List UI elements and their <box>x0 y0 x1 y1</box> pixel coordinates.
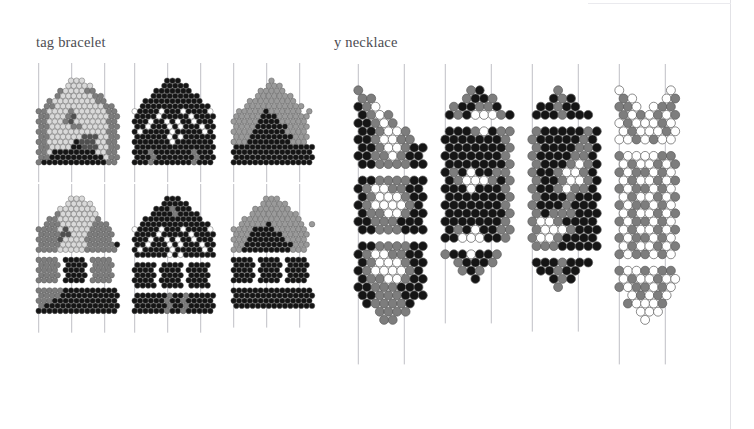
bead[interactable] <box>545 135 554 144</box>
bead[interactable] <box>541 225 550 234</box>
bead[interactable] <box>480 127 489 136</box>
bead[interactable] <box>210 303 216 309</box>
bead[interactable] <box>255 221 261 227</box>
bead[interactable] <box>162 232 168 238</box>
bead[interactable] <box>103 114 109 120</box>
bead[interactable] <box>234 262 240 268</box>
bead[interactable] <box>82 211 88 217</box>
bead[interactable] <box>202 267 208 273</box>
bead[interactable] <box>290 98 296 104</box>
bead[interactable] <box>236 139 242 145</box>
bead[interactable] <box>575 160 584 169</box>
bead[interactable] <box>164 88 170 94</box>
bead[interactable] <box>231 129 237 135</box>
bead[interactable] <box>445 127 454 136</box>
bead[interactable] <box>49 103 55 109</box>
bead[interactable] <box>282 201 288 207</box>
bead[interactable] <box>298 232 304 238</box>
bead[interactable] <box>274 196 280 202</box>
bead[interactable] <box>87 154 93 160</box>
bead[interactable] <box>114 154 120 160</box>
bead[interactable] <box>575 110 584 119</box>
bead[interactable] <box>401 258 410 267</box>
bead[interactable] <box>562 151 571 160</box>
bead[interactable] <box>93 272 99 278</box>
bead[interactable] <box>449 102 458 111</box>
bead[interactable] <box>269 298 275 304</box>
bead[interactable] <box>79 149 85 155</box>
bead[interactable] <box>252 119 258 125</box>
bead[interactable] <box>60 154 66 160</box>
bead[interactable] <box>375 225 384 234</box>
bead[interactable] <box>250 262 256 268</box>
bead[interactable] <box>101 149 107 155</box>
bead[interactable] <box>236 257 242 263</box>
bead[interactable] <box>242 267 248 273</box>
bead[interactable] <box>554 168 563 177</box>
bead[interactable] <box>172 134 178 140</box>
bead[interactable] <box>250 103 256 109</box>
bead[interactable] <box>153 206 159 212</box>
bead[interactable] <box>277 242 283 248</box>
bead[interactable] <box>471 225 480 234</box>
bead[interactable] <box>623 217 632 226</box>
bead[interactable] <box>205 262 211 268</box>
bead[interactable] <box>354 151 363 160</box>
bead[interactable] <box>167 221 173 227</box>
bead[interactable] <box>255 134 261 140</box>
bead[interactable] <box>47 267 53 273</box>
bead[interactable] <box>98 144 104 150</box>
bead[interactable] <box>579 168 588 177</box>
bead[interactable] <box>549 143 558 152</box>
bead[interactable] <box>293 103 299 109</box>
bead[interactable] <box>244 144 250 150</box>
bead[interactable] <box>55 154 61 160</box>
bead[interactable] <box>207 159 213 165</box>
bead[interactable] <box>462 94 471 103</box>
bead[interactable] <box>279 288 285 294</box>
bead[interactable] <box>375 127 384 136</box>
bead[interactable] <box>151 272 157 278</box>
bead[interactable] <box>528 201 537 210</box>
bead[interactable] <box>645 242 654 251</box>
bead[interactable] <box>47 257 53 263</box>
bead[interactable] <box>410 291 419 300</box>
bead[interactable] <box>156 93 162 99</box>
bead[interactable] <box>66 114 72 120</box>
bead[interactable] <box>301 129 307 135</box>
bead[interactable] <box>167 134 173 140</box>
bead[interactable] <box>619 209 628 218</box>
bead[interactable] <box>388 135 397 144</box>
bead[interactable] <box>106 277 112 283</box>
bead[interactable] <box>106 257 112 263</box>
bead[interactable] <box>180 108 186 114</box>
bead[interactable] <box>484 168 493 177</box>
bead[interactable] <box>584 143 593 152</box>
bead[interactable] <box>541 176 550 185</box>
bead[interactable] <box>111 288 117 294</box>
bead[interactable] <box>658 283 667 292</box>
bead[interactable] <box>274 88 280 94</box>
bead[interactable] <box>410 225 419 234</box>
bead[interactable] <box>501 184 510 193</box>
bead[interactable] <box>153 108 159 114</box>
bead[interactable] <box>55 303 61 309</box>
bead[interactable] <box>87 303 93 309</box>
bead[interactable] <box>536 217 545 226</box>
bead[interactable] <box>178 232 184 238</box>
bead[interactable] <box>106 298 112 304</box>
bead[interactable] <box>304 144 310 150</box>
bead[interactable] <box>156 134 162 140</box>
bead[interactable] <box>57 108 63 114</box>
bead[interactable] <box>143 247 149 253</box>
bead[interactable] <box>393 143 402 152</box>
bead[interactable] <box>397 299 406 308</box>
bead[interactable] <box>304 272 310 278</box>
bead[interactable] <box>384 291 393 300</box>
bead[interactable] <box>545 151 554 160</box>
bead[interactable] <box>156 144 162 150</box>
bead[interactable] <box>207 298 213 304</box>
bead[interactable] <box>666 184 675 193</box>
bead[interactable] <box>277 221 283 227</box>
bead[interactable] <box>68 196 74 202</box>
